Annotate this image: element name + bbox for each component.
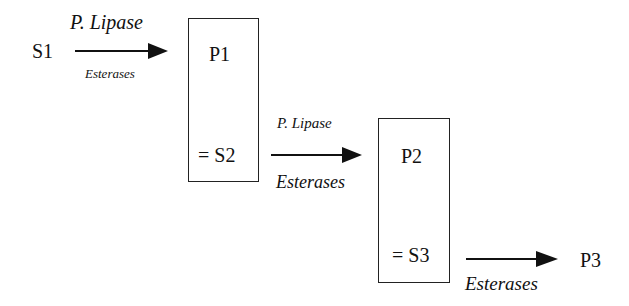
node-p2: P2 bbox=[401, 146, 422, 166]
arrow-s3-p3 bbox=[466, 251, 558, 267]
node-s2: = S2 bbox=[198, 145, 235, 165]
edge3-bottom-label: Esterases bbox=[465, 274, 538, 293]
node-s3: = S3 bbox=[392, 245, 429, 265]
node-s1: S1 bbox=[32, 41, 53, 61]
edge1-top-label: P. Lipase bbox=[70, 12, 143, 32]
arrow-s1-p1 bbox=[75, 43, 168, 59]
node-p3: P3 bbox=[580, 250, 601, 270]
edge1-bottom-label: Esterases bbox=[85, 67, 135, 80]
arrows-layer bbox=[0, 0, 629, 306]
node-p1: P1 bbox=[209, 44, 230, 64]
edge2-bottom-label: Esterases bbox=[276, 173, 345, 191]
edge2-top-label: P. Lipase bbox=[277, 116, 332, 131]
arrow-s2-p2 bbox=[271, 147, 362, 163]
